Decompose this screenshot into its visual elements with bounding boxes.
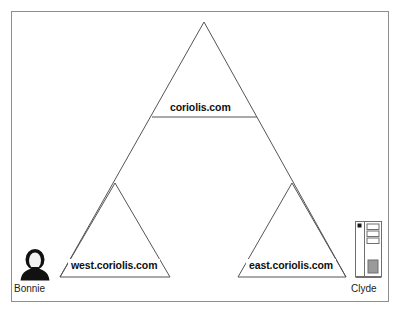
host-label-bonnie: Bonnie	[14, 283, 45, 295]
server-tower-icon	[356, 222, 382, 278]
zone-label-root: coriolis.com	[167, 101, 234, 113]
zone-label-east: east.coriolis.com	[246, 259, 336, 271]
person-icon	[21, 249, 50, 281]
root-zone-triangle	[60, 22, 346, 277]
host-label-clyde: Clyde	[351, 283, 377, 295]
root-left-edge	[60, 22, 204, 277]
diagram-figure: coriolis.com west.coriolis.com east.cori…	[0, 0, 400, 315]
root-right-edge	[204, 22, 346, 277]
diagram-canvas	[0, 0, 400, 315]
zone-label-west: west.coriolis.com	[68, 259, 160, 271]
